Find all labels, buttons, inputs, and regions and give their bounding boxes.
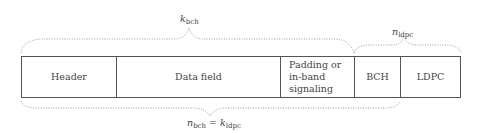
label-k-bch: kbch <box>180 13 199 26</box>
field-header: Header <box>22 57 117 97</box>
field-bch: BCH <box>355 57 401 97</box>
label-n-bch-equals-k-ldpc: nbch = kldpc <box>187 117 241 130</box>
brace-n-bch-k-ldpc <box>21 101 400 116</box>
field-padding: Padding or in-band signaling <box>281 57 355 97</box>
label-n-ldpc: nldpc <box>392 26 413 39</box>
field-ldpc: LDPC <box>401 57 460 97</box>
field-header-label: Header <box>51 71 87 83</box>
field-bch-label: BCH <box>366 71 389 83</box>
brace-k-bch <box>21 28 354 53</box>
field-ldpc-label: LDPC <box>417 71 445 83</box>
field-padding-label: Padding or in-band signaling <box>289 59 341 95</box>
field-data-label: Data field <box>175 71 222 83</box>
frame-structure: Header Data field Padding or in-band sig… <box>21 56 461 98</box>
field-data: Data field <box>117 57 281 97</box>
